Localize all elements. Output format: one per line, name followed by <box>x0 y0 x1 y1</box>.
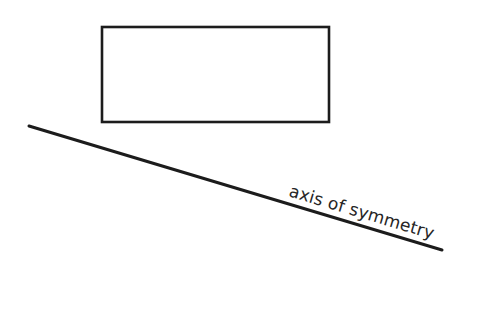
axis-of-symmetry-label-group: axis of symmetry <box>287 181 437 243</box>
rectangle-shape <box>102 27 329 122</box>
axis-of-symmetry-label: axis of symmetry <box>287 181 437 243</box>
geometry-figure: axis of symmetry <box>0 0 481 309</box>
diagram-canvas: axis of symmetry <box>0 0 481 309</box>
axis-of-symmetry-line <box>29 126 442 250</box>
